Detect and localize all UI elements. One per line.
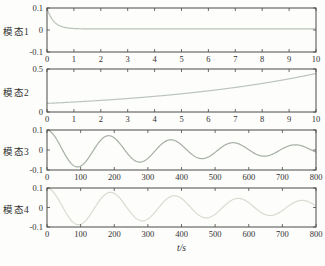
y-tick-label: 0.1 xyxy=(32,3,43,13)
y-tick-label: -0.1 xyxy=(30,165,43,175)
subplot4-ylabel: 模态4 xyxy=(3,202,43,216)
x-tick-label: 200 xyxy=(108,172,121,182)
x-tick-label: 300 xyxy=(142,229,155,239)
x-tick-label: 7 xyxy=(233,114,237,124)
axes-box xyxy=(47,188,316,227)
x-tick-label: 3 xyxy=(126,114,130,124)
curve-mode4 xyxy=(47,188,316,225)
x-tick-label: 300 xyxy=(142,172,155,182)
y-tick-label: -0.1 xyxy=(30,47,43,57)
subplot1-ylabel: 模态1 xyxy=(3,24,43,38)
x-tick-label: 500 xyxy=(209,229,222,239)
x-tick-label: 6 xyxy=(206,114,210,124)
modal-response-figure: 012345678910-0.100.101234567891000.50100… xyxy=(0,0,325,266)
curve-mode2 xyxy=(47,73,316,103)
x-tick-label: 9 xyxy=(287,114,291,124)
x-tick-label: 600 xyxy=(242,229,255,239)
subplots-canvas: 012345678910-0.100.101234567891000.50100… xyxy=(0,0,325,266)
x-tick-label: 1 xyxy=(72,54,76,64)
x-tick-label: 10 xyxy=(312,114,321,124)
x-tick-label: 9 xyxy=(287,54,291,64)
y-tick-label: 0.1 xyxy=(32,183,43,193)
x-tick-label: 3 xyxy=(126,54,130,64)
x-tick-label: 700 xyxy=(276,229,289,239)
curve-mode3 xyxy=(47,130,316,167)
axes-box xyxy=(47,130,316,170)
x-tick-label: 100 xyxy=(74,229,87,239)
x-tick-label: 5 xyxy=(179,114,183,124)
x-tick-label: 0 xyxy=(45,229,49,239)
x-tick-label: 1 xyxy=(72,114,76,124)
y-tick-label: 0.5 xyxy=(32,64,43,74)
x-axis-label: t/s xyxy=(47,243,316,253)
x-tick-label: 400 xyxy=(175,172,188,182)
x-tick-label: 400 xyxy=(175,229,188,239)
x-tick-label: 0 xyxy=(45,114,49,124)
subplot-2: 01234567891000.5 xyxy=(32,64,320,124)
subplot3-ylabel: 模态3 xyxy=(3,144,43,158)
subplot2-ylabel: 模态2 xyxy=(3,85,43,99)
x-tick-label: 800 xyxy=(310,229,323,239)
x-tick-label: 700 xyxy=(276,172,289,182)
x-tick-label: 2 xyxy=(99,114,103,124)
y-tick-label: 0 xyxy=(39,107,43,117)
x-tick-label: 4 xyxy=(152,114,157,124)
x-tick-label: 600 xyxy=(242,172,255,182)
x-tick-label: 500 xyxy=(209,172,222,182)
y-tick-label: -0.1 xyxy=(30,222,43,232)
axes-box xyxy=(47,69,316,112)
subplot-4: 0100200300400500600700800-0.100.1 xyxy=(30,183,323,239)
subplot-3: 0100200300400500600700800-0.100.1 xyxy=(30,125,323,182)
x-tick-label: 8 xyxy=(260,114,264,124)
x-tick-label: 800 xyxy=(310,172,323,182)
x-tick-label: 6 xyxy=(206,54,210,64)
x-tick-label: 100 xyxy=(74,172,87,182)
y-tick-label: 0.1 xyxy=(32,125,43,135)
x-tick-label: 0 xyxy=(45,172,49,182)
axes-box xyxy=(47,8,316,52)
x-tick-label: 10 xyxy=(312,54,321,64)
x-tick-label: 200 xyxy=(108,229,121,239)
x-tick-label: 8 xyxy=(260,54,264,64)
x-tick-label: 5 xyxy=(179,54,183,64)
x-tick-label: 2 xyxy=(99,54,103,64)
subplot-1: 012345678910-0.100.1 xyxy=(30,3,321,64)
x-tick-label: 0 xyxy=(45,54,49,64)
x-tick-label: 7 xyxy=(233,54,237,64)
curve-mode1 xyxy=(47,8,316,29)
x-tick-label: 4 xyxy=(152,54,157,64)
